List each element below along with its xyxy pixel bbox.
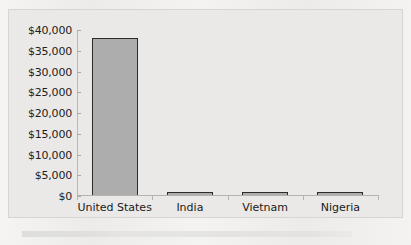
y-axis-tick-label: $35,000 — [0, 46, 72, 57]
y-axis-tick-label: $25,000 — [0, 87, 72, 98]
bar-slot — [303, 30, 378, 196]
y-axis-tick-mark — [77, 92, 81, 93]
y-axis-tick-label: $10,000 — [0, 150, 72, 161]
y-axis-tick-mark — [77, 175, 81, 176]
y-axis-tick-label: $20,000 — [0, 108, 72, 119]
scan-artifact — [22, 231, 352, 237]
y-axis-tick-label: $40,000 — [0, 25, 72, 36]
y-axis-tick-mark — [77, 72, 81, 73]
x-axis: United StatesIndiaVietnamNigeria — [77, 201, 378, 221]
y-axis-tick-label: $30,000 — [0, 67, 72, 78]
x-axis-tick-mark — [378, 195, 379, 200]
bar-chart-figure: $0$5,000$10,000$15,000$20,000$25,000$30,… — [0, 0, 411, 245]
y-axis: $0$5,000$10,000$15,000$20,000$25,000$30,… — [0, 30, 72, 196]
bar-slot — [152, 30, 227, 196]
y-axis-tick-mark — [77, 155, 81, 156]
x-axis-tick-mark — [228, 195, 229, 200]
y-axis-tick-label: $0 — [0, 191, 72, 202]
x-axis-tick-mark — [77, 195, 78, 200]
x-axis-category-label: India — [152, 201, 227, 214]
y-axis-tick-mark — [77, 51, 81, 52]
x-axis-category-label: Vietnam — [228, 201, 303, 214]
y-axis-tick-mark — [77, 113, 81, 114]
y-axis-tick-label: $15,000 — [0, 129, 72, 140]
y-axis-tick-mark — [77, 134, 81, 135]
y-axis-tick-mark — [77, 30, 81, 31]
bar-slot — [77, 30, 152, 196]
plot-area — [77, 30, 378, 196]
bar-slot — [228, 30, 303, 196]
x-axis-tick-mark — [303, 195, 304, 200]
x-axis-category-label: United States — [77, 201, 152, 214]
x-axis-tick-mark — [152, 195, 153, 200]
x-axis-category-label: Nigeria — [303, 201, 378, 214]
y-axis-tick-label: $5,000 — [0, 170, 72, 181]
bar-united-states[interactable] — [92, 38, 138, 196]
